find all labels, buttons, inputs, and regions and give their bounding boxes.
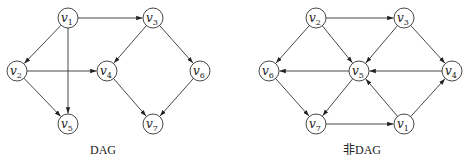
- node-v6: v6: [259, 61, 279, 81]
- dag-graph: v1v2v3v4v5v6v7 DAG: [7, 8, 210, 157]
- node-v1: v1: [394, 114, 414, 134]
- node-v7: v7: [306, 114, 326, 134]
- node-v7: v7: [143, 114, 163, 134]
- node-v5: v5: [58, 114, 78, 134]
- edge-v2-v6: [276, 26, 309, 64]
- edge-v1-v5: [366, 79, 398, 116]
- edge-v4-v7: [114, 79, 147, 117]
- edge-v6-v7: [160, 79, 193, 117]
- dag-caption: DAG: [90, 143, 116, 157]
- node-v4: v4: [442, 61, 462, 81]
- edge-v3-v6: [160, 26, 193, 64]
- node-v1: v1: [58, 8, 78, 28]
- edge-v1-v2: [24, 25, 61, 63]
- node-v6: v6: [190, 61, 210, 81]
- node-v3: v3: [394, 8, 414, 28]
- edge-v3-v5: [366, 26, 398, 63]
- edge-v3-v4: [114, 26, 146, 64]
- edge-v3-v4: [411, 25, 445, 63]
- dag-comparison-diagram: v1v2v3v4v5v6v7 DAG v1v2v3v4v5v6v7 非DAG: [0, 0, 469, 164]
- node-v2: v2: [7, 61, 27, 81]
- edge-v5-v7: [323, 79, 353, 116]
- node-v4: v4: [97, 61, 117, 81]
- node-v3: v3: [143, 8, 163, 28]
- edge-v1-v4: [411, 79, 445, 117]
- edge-v2-v5: [322, 26, 352, 63]
- edge-v2-v5: [24, 78, 61, 116]
- node-v5: v5: [349, 61, 369, 81]
- node-v2: v2: [306, 8, 326, 28]
- edge-v6-v7: [276, 79, 309, 117]
- non-dag-graph: v1v2v3v4v5v6v7 非DAG: [259, 8, 462, 157]
- non-dag-caption: 非DAG: [343, 143, 381, 157]
